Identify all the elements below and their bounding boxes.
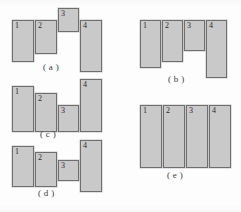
block-label: 3 <box>189 106 193 115</box>
block-3: 3 <box>186 105 208 168</box>
block-label: 1 <box>143 106 147 115</box>
block-label: 4 <box>212 106 216 115</box>
block-1: 1 <box>140 105 162 168</box>
block-label: 2 <box>166 106 170 115</box>
figure-canvas: 1234( a )1234( b )1234( c )1234( d )1234… <box>0 0 241 212</box>
panel-e: 1234( e ) <box>0 0 241 212</box>
panel-caption: ( e ) <box>167 170 183 180</box>
block-4: 4 <box>209 105 231 168</box>
block-2: 2 <box>163 105 185 168</box>
